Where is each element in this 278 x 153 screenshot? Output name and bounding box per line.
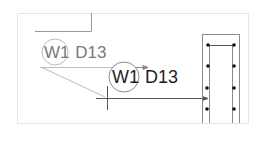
wall-id-text: W1 — [44, 43, 70, 62]
rebar-dot — [232, 107, 236, 111]
rebar-dot — [205, 107, 209, 111]
rebar-dot — [205, 86, 209, 90]
bar-size-text: D13 — [75, 43, 106, 62]
rebar-dot — [232, 86, 236, 90]
wall-rebar-label[interactable]: W1 D13 — [112, 68, 178, 86]
rebar-dot — [206, 64, 210, 68]
ghost-label: W1 D13 — [44, 44, 106, 61]
rebar-dot — [232, 43, 236, 47]
wall-id-text: W1 — [112, 67, 139, 87]
top-leader-line — [35, 13, 92, 32]
bar-size-text: D13 — [145, 67, 178, 87]
rebar-dot — [232, 64, 236, 68]
main-leader-line — [96, 86, 208, 110]
rebar-dot — [206, 43, 210, 47]
